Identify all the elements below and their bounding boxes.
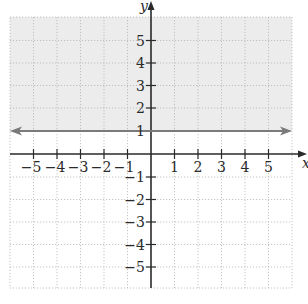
x-tick-labels: −5 −4 −3 −2 −1 1 2 3 4 5 xyxy=(21,159,273,175)
y-axis-label: y xyxy=(139,0,149,14)
x-tick-label: 1 xyxy=(170,159,179,175)
y-tick-label: −3 xyxy=(124,214,145,230)
y-tick-label: −4 xyxy=(124,237,145,253)
x-tick-label: 2 xyxy=(194,159,203,175)
x-axis-label: x xyxy=(302,155,308,171)
x-axis xyxy=(10,149,307,159)
x-tick-label: −5 xyxy=(21,159,42,175)
x-tick-label: 5 xyxy=(264,159,273,175)
y-tick-label: 1 xyxy=(136,123,145,139)
coordinate-plane: y x −5 −4 −3 −2 −1 1 2 3 4 5 5 4 3 2 1 −… xyxy=(0,0,308,304)
y-tick-label: 3 xyxy=(136,78,145,94)
y-tick-label: −1 xyxy=(124,169,145,185)
y-tick-label: −5 xyxy=(124,259,145,275)
y-tick-label: −2 xyxy=(124,192,145,208)
x-tick-label: 4 xyxy=(241,159,250,175)
x-tick-label: −3 xyxy=(68,159,89,175)
x-tick-label: −2 xyxy=(91,159,112,175)
y-tick-label: 5 xyxy=(136,33,145,49)
y-tick-label: 2 xyxy=(136,100,145,116)
x-tick-label: −4 xyxy=(45,159,66,175)
y-tick-label: 4 xyxy=(136,55,145,71)
x-tick-label: 3 xyxy=(217,159,226,175)
